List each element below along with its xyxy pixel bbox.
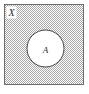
universal-set-label: X <box>7 7 15 18</box>
subset-label-a: A <box>42 45 49 55</box>
venn-diagram-figure: X A <box>0 0 89 94</box>
venn-diagram-canvas: X A <box>0 0 89 94</box>
